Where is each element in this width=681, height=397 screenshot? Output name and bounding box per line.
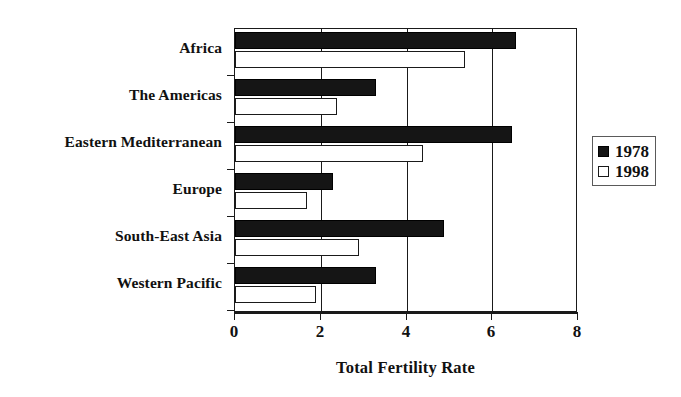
fertility-rate-bar-chart: Africa The Americas Eastern Mediterranea…	[0, 0, 681, 397]
gridline-6	[492, 29, 493, 311]
bar-1978-eastern-mediterranean	[235, 126, 512, 143]
x-axis-tick	[491, 312, 492, 320]
bar-1998-eastern-mediterranean	[235, 145, 423, 162]
gridline-4	[407, 29, 408, 311]
category-label-eastern-mediterranean: Eastern Mediterranean	[65, 134, 223, 150]
bar-1978-south-east-asia	[235, 220, 444, 237]
legend-label-1998: 1998	[615, 163, 649, 180]
x-axis-tick	[234, 312, 235, 320]
x-axis-tick-label-4: 4	[386, 322, 426, 342]
legend-label-1978: 1978	[615, 143, 649, 160]
x-axis-tick-label-6: 6	[471, 322, 511, 342]
category-label-south-east-asia: South-East Asia	[115, 228, 222, 244]
category-label-africa: Africa	[179, 40, 222, 56]
chart-legend: 1978 1998	[592, 136, 656, 186]
bar-1998-the-americas	[235, 98, 337, 115]
x-axis-tick	[577, 312, 578, 320]
category-axis-labels: Africa The Americas Eastern Mediterranea…	[0, 28, 228, 312]
x-axis-tick	[406, 312, 407, 320]
filled-square-icon	[598, 146, 609, 157]
category-label-the-americas: The Americas	[129, 87, 222, 103]
hollow-square-icon	[598, 166, 609, 177]
bar-1998-europe	[235, 192, 307, 209]
bar-1978-africa	[235, 32, 516, 49]
plot-area	[234, 28, 577, 312]
bar-1998-western-pacific	[235, 286, 316, 303]
bar-1978-the-americas	[235, 79, 376, 96]
bar-1998-south-east-asia	[235, 239, 359, 256]
x-axis-tick-label-8: 8	[557, 322, 597, 342]
category-label-europe: Europe	[173, 181, 222, 197]
x-axis-tick	[320, 312, 321, 320]
bar-1998-africa	[235, 51, 465, 68]
category-label-western-pacific: Western Pacific	[117, 275, 222, 291]
bar-1978-western-pacific	[235, 267, 376, 284]
x-axis-tick-label-0: 0	[214, 322, 254, 342]
legend-item-1978: 1978	[598, 141, 649, 161]
x-axis-tick-label-2: 2	[300, 322, 340, 342]
x-axis-title: Total Fertility Rate	[234, 358, 577, 378]
legend-item-1998: 1998	[598, 161, 649, 181]
bar-1978-europe	[235, 173, 333, 190]
